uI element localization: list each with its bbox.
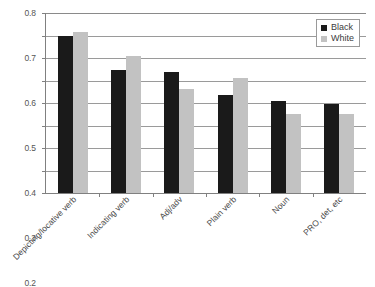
y-axis-tick: 0.7 xyxy=(42,36,46,37)
y-axis-tick-label: 0.6 xyxy=(24,99,36,108)
bar-group xyxy=(58,13,88,193)
legend-label-black: Black xyxy=(331,23,353,32)
bar-black xyxy=(218,95,233,193)
plot-area: 00.10.20.30.40.50.60.70.8 Black White xyxy=(45,13,366,194)
y-axis-tick-label: 0.4 xyxy=(24,189,36,198)
bar-black xyxy=(271,101,286,193)
gridline xyxy=(46,126,366,127)
bar-white xyxy=(233,78,248,193)
legend-swatch-black-icon xyxy=(321,25,327,31)
bar-black xyxy=(324,104,339,193)
y-axis-tick: 0.6 xyxy=(42,58,46,59)
legend-item-white: White xyxy=(321,34,354,43)
bar-group xyxy=(271,13,301,193)
x-axis-category-label: Depicting/locative verb xyxy=(0,195,78,287)
bar-white xyxy=(126,56,141,193)
gridline xyxy=(46,81,366,82)
y-axis-tick-label: 0.7 xyxy=(24,54,36,63)
y-axis-tick-label: 0.8 xyxy=(24,9,36,18)
bar-white xyxy=(179,89,194,193)
gridline xyxy=(46,148,366,149)
gridline xyxy=(46,13,366,14)
legend-swatch-white-icon xyxy=(321,36,327,42)
bar-white xyxy=(73,32,88,193)
chart-legend: Black White xyxy=(316,19,360,47)
bar-black xyxy=(111,70,126,193)
bar-chart: 00.10.20.30.40.50.60.70.8 Black White De… xyxy=(0,0,375,287)
legend-item-black: Black xyxy=(321,23,354,32)
y-axis-tick: 0.8 xyxy=(42,13,46,14)
bar-group xyxy=(218,13,248,193)
bar-white xyxy=(339,114,354,193)
y-axis-tick: 0.3 xyxy=(42,126,46,127)
y-axis-tick: 0.1 xyxy=(42,171,46,172)
bar-white xyxy=(286,114,301,193)
bar-group xyxy=(111,13,141,193)
y-axis-tick: 0 xyxy=(42,193,46,194)
bar-group xyxy=(164,13,194,193)
x-axis-labels: Depicting/locative verbIndicating verbAd… xyxy=(45,195,365,285)
y-axis-tick-label: 0.5 xyxy=(24,144,36,153)
gridline xyxy=(46,171,366,172)
legend-label-white: White xyxy=(331,34,354,43)
y-axis-tick: 0.2 xyxy=(42,148,46,149)
gridline xyxy=(46,58,366,59)
bar-black xyxy=(58,36,73,194)
bar-black xyxy=(164,72,179,194)
gridline xyxy=(46,103,366,104)
y-axis-tick: 0.5 xyxy=(42,81,46,82)
y-axis-tick: 0.4 xyxy=(42,103,46,104)
